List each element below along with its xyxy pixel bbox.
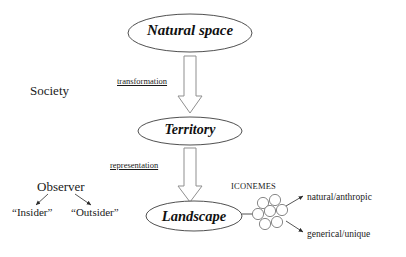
diagram-graphics	[0, 0, 406, 257]
diagram-canvas: Natural space Territory Landscape transf…	[0, 0, 406, 257]
block-arrow-transformation	[178, 56, 202, 113]
annotation-natural-anthropic: natural/anthropic	[307, 192, 372, 202]
iconeme-circle	[269, 194, 280, 205]
node-shape-territory	[138, 117, 242, 145]
annotation-insider: “Insider”	[12, 206, 52, 218]
arrow-to-natural-anthropic	[286, 196, 303, 206]
node-shape-natural-space	[128, 14, 252, 52]
block-arrow-representation	[178, 148, 202, 202]
node-shape-landscape	[146, 201, 242, 231]
arrow-observer-to-insider	[36, 194, 48, 205]
arrow-to-generical-unique	[286, 221, 303, 232]
edge-label-representation: representation	[110, 160, 158, 170]
iconeme-circle	[252, 208, 263, 219]
iconeme-circle	[264, 205, 275, 216]
iconeme-circle	[259, 218, 270, 229]
annotation-generical-unique: generical/unique	[307, 229, 370, 239]
arrow-observer-to-outsider	[75, 194, 91, 205]
edge-label-transformation: transformation	[117, 76, 167, 86]
iconeme-cluster	[252, 194, 287, 229]
annotation-observer: Observer	[37, 179, 85, 195]
annotation-iconemes: ICONEMES	[231, 181, 276, 191]
annotation-outsider: “Outsider”	[71, 206, 119, 218]
iconeme-circle	[271, 216, 282, 227]
iconeme-circle	[276, 204, 287, 215]
annotation-society: Society	[30, 83, 69, 99]
